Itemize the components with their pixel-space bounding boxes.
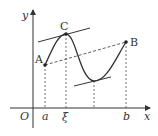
tangent-at-minimum [74, 77, 111, 86]
label-b-point: B [130, 36, 138, 49]
label-a-point: A [34, 53, 44, 66]
mvt-diagram: A C B y x O a ξ b [0, 0, 158, 136]
point-b [124, 40, 128, 44]
tick-b: b [123, 110, 130, 123]
label-c-point: C [60, 20, 68, 33]
tick-a: a [42, 110, 49, 123]
x-axis-label: x [144, 110, 151, 123]
point-a [43, 63, 47, 67]
y-axis-label: y [21, 9, 29, 22]
origin-label: O [20, 110, 29, 123]
tick-xi: ξ [62, 111, 69, 124]
function-curve [45, 34, 126, 81]
secant-ab [45, 42, 126, 65]
